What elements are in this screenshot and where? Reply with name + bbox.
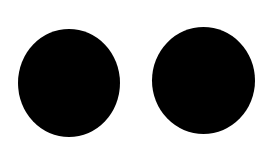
canvas xyxy=(0,0,273,152)
right-circle xyxy=(152,27,255,134)
left-circle xyxy=(18,29,120,137)
